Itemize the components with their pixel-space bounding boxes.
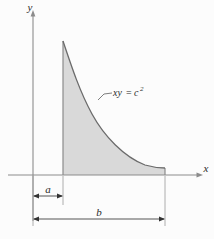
figure-container: y x xy = c 2 a b xyxy=(0,0,214,239)
dimension-b-label: b xyxy=(96,206,102,218)
dimension-a-arrow-right-icon xyxy=(57,194,63,199)
curve-label-xy: xy xyxy=(112,87,122,98)
curve-label-equals: = xyxy=(126,87,132,98)
shaded-region xyxy=(63,41,165,175)
dimension-b-arrow-left-icon xyxy=(33,217,39,222)
curve-equation-label: xy = c 2 xyxy=(112,85,144,98)
dimension-b: b xyxy=(33,206,165,221)
figure-svg: y x xy = c 2 a b xyxy=(0,0,214,239)
dimension-a-arrow-left-icon xyxy=(33,194,39,199)
curve-label-c: c xyxy=(134,87,139,98)
x-axis-arrow-icon xyxy=(197,173,204,178)
curve-label-leader-line xyxy=(98,93,112,100)
dimension-b-arrow-right-icon xyxy=(159,217,165,222)
dimension-a-label: a xyxy=(45,183,51,195)
x-axis-label: x xyxy=(203,162,209,174)
y-axis-label: y xyxy=(27,1,33,13)
curve-label-exponent: 2 xyxy=(140,85,144,93)
dimension-a: a xyxy=(33,183,63,198)
